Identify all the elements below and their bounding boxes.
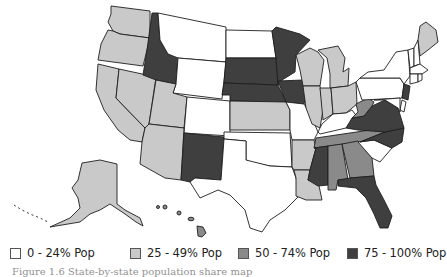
legend-label: 75 - 100% Pop: [364, 246, 446, 260]
state-co: [184, 97, 230, 136]
legend-swatch-white: [10, 248, 21, 259]
state-az: [140, 124, 184, 180]
legend-label: 50 - 74% Pop: [255, 246, 330, 260]
state-ak: [50, 160, 143, 227]
state-sd: [224, 58, 278, 85]
legend-swatch-light-gray: [130, 248, 141, 259]
state-pa: [356, 78, 404, 100]
state-ri: [418, 74, 422, 82]
legend-item-0-24: 0 - 24% Pop: [10, 246, 95, 260]
state-ks: [230, 101, 290, 130]
legend-label: 25 - 49% Pop: [147, 246, 222, 260]
legend-label: 0 - 24% Pop: [27, 246, 95, 260]
state-wy: [173, 58, 226, 99]
state-nd: [226, 30, 276, 58]
figure-caption: Figure 1.6 State-by-state population sha…: [12, 266, 252, 277]
state-fl: [338, 176, 392, 228]
state-me: [418, 22, 438, 56]
state-hi: [157, 205, 207, 237]
map-legend: 0 - 24% Pop 25 - 49% Pop 50 - 74% Pop 75…: [10, 246, 447, 262]
state-ne: [222, 83, 286, 102]
state-de: [400, 100, 406, 112]
legend-swatch-medium-gray: [238, 248, 249, 259]
legend-swatch-dark-gray: [347, 248, 358, 259]
legend-item-50-74: 50 - 74% Pop: [238, 246, 330, 260]
aleutian-islands: [14, 205, 48, 222]
state-nm: [181, 133, 224, 182]
us-choropleth-map: [0, 0, 447, 240]
legend-item-75-100: 75 - 100% Pop: [347, 246, 446, 260]
legend-item-25-49: 25 - 49% Pop: [130, 246, 222, 260]
state-ct: [410, 74, 418, 84]
